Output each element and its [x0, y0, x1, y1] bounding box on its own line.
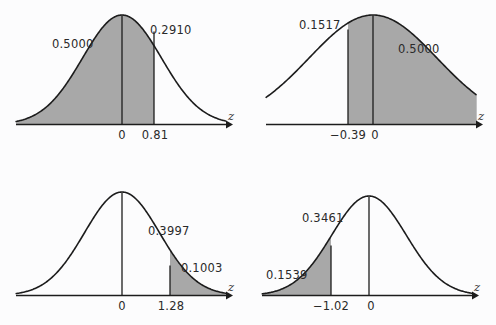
area-label-left-panel1: 0.5000	[52, 37, 93, 51]
tick-z-panel4: −1.02	[313, 299, 349, 313]
area-label-left-panel4: 0.3461	[302, 211, 343, 225]
tick-z-panel1: 0.81	[142, 128, 168, 142]
axis-symbol-panel4: z	[473, 280, 481, 294]
normal-curve-panel3	[16, 192, 226, 294]
area-label-right-panel2: 0.5000	[398, 42, 439, 56]
shaded-area-panel2	[348, 15, 477, 124]
tick-zero-panel4: 0	[367, 299, 375, 313]
axis-symbol-panel2: z	[477, 109, 485, 123]
panel-top-left: 0.5000 0.2910 0 0.81 z	[16, 15, 235, 142]
shaded-area-panel4	[262, 236, 331, 295]
area-label-left-panel2: 0.1517	[299, 18, 340, 32]
axis-symbol-panel3: z	[227, 280, 235, 294]
tick-zero-panel2: 0	[371, 128, 379, 142]
tick-zero-panel1: 0	[118, 128, 126, 142]
panel-bottom-right: 0.3461 0.1539 −1.02 0 z	[262, 196, 481, 313]
area-label-right-panel1: 0.2910	[150, 23, 191, 37]
tick-zero-panel3: 0	[118, 299, 126, 313]
shaded-area-panel1	[16, 15, 154, 125]
area-label-right-panel4: 0.1539	[266, 268, 307, 282]
area-label-left-panel3: 0.3997	[148, 224, 189, 238]
axis-symbol-panel1: z	[227, 109, 235, 123]
panel-top-right: 0.1517 0.5000 −0.39 0 z	[266, 15, 485, 142]
area-label-right-panel3: 0.1003	[181, 261, 222, 275]
tick-z-panel3: 1.28	[158, 299, 184, 313]
panel-bottom-left: 0.3997 0.1003 0 1.28 z	[16, 192, 235, 313]
tick-z-panel2: −0.39	[330, 128, 366, 142]
normal-distribution-figure: 0.5000 0.2910 0 0.81 z 0.1517 0.5000 −0.…	[0, 0, 496, 325]
